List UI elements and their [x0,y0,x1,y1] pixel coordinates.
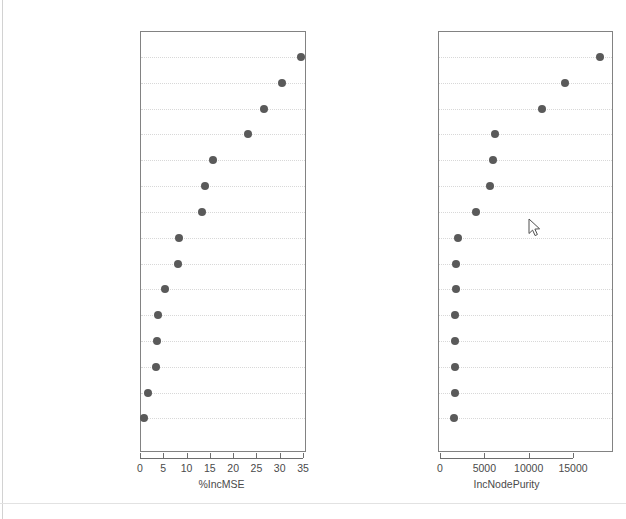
x-axis-tick [529,453,530,458]
x-axis-tick [233,453,234,458]
gridline [439,315,612,316]
gridline [141,238,305,239]
gridline [141,264,305,265]
gridline [439,367,612,368]
x-axis-tick [303,453,304,458]
data-point [452,260,460,268]
x-axis-tick-label: 5 [160,462,166,474]
data-point [596,53,604,61]
x-axis-tick-label: 0 [137,462,143,474]
gridline [439,83,612,84]
data-point [452,285,460,293]
gridline [439,134,612,135]
gridline [439,418,612,419]
x-axis-title-left: %IncMSE [198,478,244,490]
plot-frame-right [438,31,613,452]
x-axis-tick-label: 15000 [558,462,587,474]
gridline [141,367,305,368]
gridline [439,186,612,187]
x-axis-tick [210,453,211,458]
x-axis-tick-label: 10 [181,462,193,474]
data-point [278,79,286,87]
gridline [141,186,305,187]
x-axis-tick-label: 20 [227,462,239,474]
x-axis-tick-label: 15 [204,462,216,474]
data-point [144,389,152,397]
data-point [454,234,462,242]
x-axis-tick [163,453,164,458]
data-point [152,363,160,371]
data-point [451,363,459,371]
gridline [439,212,612,213]
plot-frame-left [140,31,306,452]
gridline [439,289,612,290]
gridline [439,393,612,394]
gridline [141,57,305,58]
gridline [141,341,305,342]
gridline [141,315,305,316]
x-axis-tick [484,453,485,458]
gridline [439,238,612,239]
gridline [439,264,612,265]
gridline [141,418,305,419]
x-axis-tick [140,453,141,458]
x-axis-tick [187,453,188,458]
data-point [201,182,209,190]
x-axis-tick-label: 5000 [473,462,496,474]
x-axis-tick-label: 30 [274,462,286,474]
x-axis-line-right [440,458,573,459]
data-point [174,260,182,268]
gridline [141,109,305,110]
gridline [141,393,305,394]
x-axis-tick [256,453,257,458]
gridline [141,160,305,161]
left-edge-rule [2,0,3,519]
x-axis-tick [440,453,441,458]
bottom-edge-rule [0,503,626,504]
data-point [209,156,217,164]
x-axis-line-left [140,458,303,459]
gridline [141,212,305,213]
data-point [260,105,268,113]
x-axis-tick-label: 10000 [514,462,543,474]
gridline [439,109,612,110]
gridline [439,160,612,161]
x-axis-title-right: IncNodePurity [474,478,540,490]
x-axis-tick-label: 25 [251,462,263,474]
data-point [175,234,183,242]
gridline [439,57,612,58]
gridline [439,341,612,342]
x-axis-tick [573,453,574,458]
variable-importance-figure: phonesper1000birthrateregionidInfantdeat… [0,0,626,519]
gridline [141,134,305,135]
x-axis-tick [280,453,281,458]
x-axis-tick-label: 0 [437,462,443,474]
x-axis-tick-label: 35 [297,462,309,474]
data-point [451,389,459,397]
